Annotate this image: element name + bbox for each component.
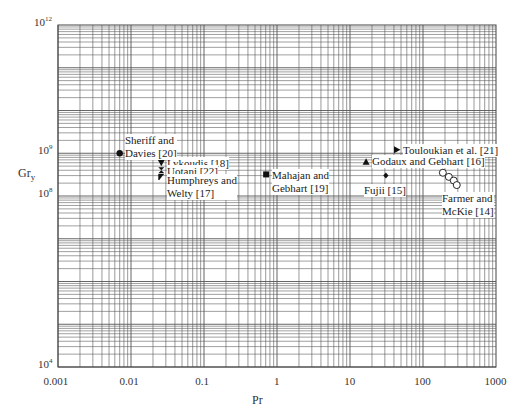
grid-lines (58, 25, 496, 367)
y-tick-label: 109 (38, 143, 53, 156)
label-mahajan-gebhart: Mahajan andGebhart [19] (272, 169, 329, 195)
x-tick-label: 0.001 (44, 375, 69, 387)
x-tick-label: 0.1 (195, 375, 209, 387)
x-tick-label: 0.01 (119, 375, 138, 387)
circle-open-marker (453, 182, 460, 189)
x-tick-label: 1 (274, 375, 280, 387)
y-tick-label: 104 (38, 357, 53, 370)
x-tick-label: 1000 (484, 375, 506, 387)
label-humphreys-welty: Humphreys andWelty [17] (167, 174, 237, 200)
y-axis-title: Gry (18, 166, 35, 182)
label-fujii: Fujii [15] (364, 184, 406, 197)
x-axis-title: Pr (252, 393, 263, 408)
flag-marker (158, 174, 164, 180)
x-tick-label: 10 (344, 375, 355, 387)
label-farmer-mckie: Farmer andMcKie [14] (442, 192, 494, 218)
triangle-right-marker (394, 146, 401, 153)
square-marker (263, 171, 269, 177)
label-touloukian: Touloukian et al. [21] (403, 144, 498, 157)
triangle-up-marker (363, 158, 370, 165)
circle-filled-marker (116, 150, 122, 156)
x-tick-label: 100 (414, 375, 431, 387)
diamond-marker (383, 173, 388, 179)
y-tick-label: 108 (38, 186, 53, 199)
y-tick-label: 1012 (34, 15, 52, 28)
